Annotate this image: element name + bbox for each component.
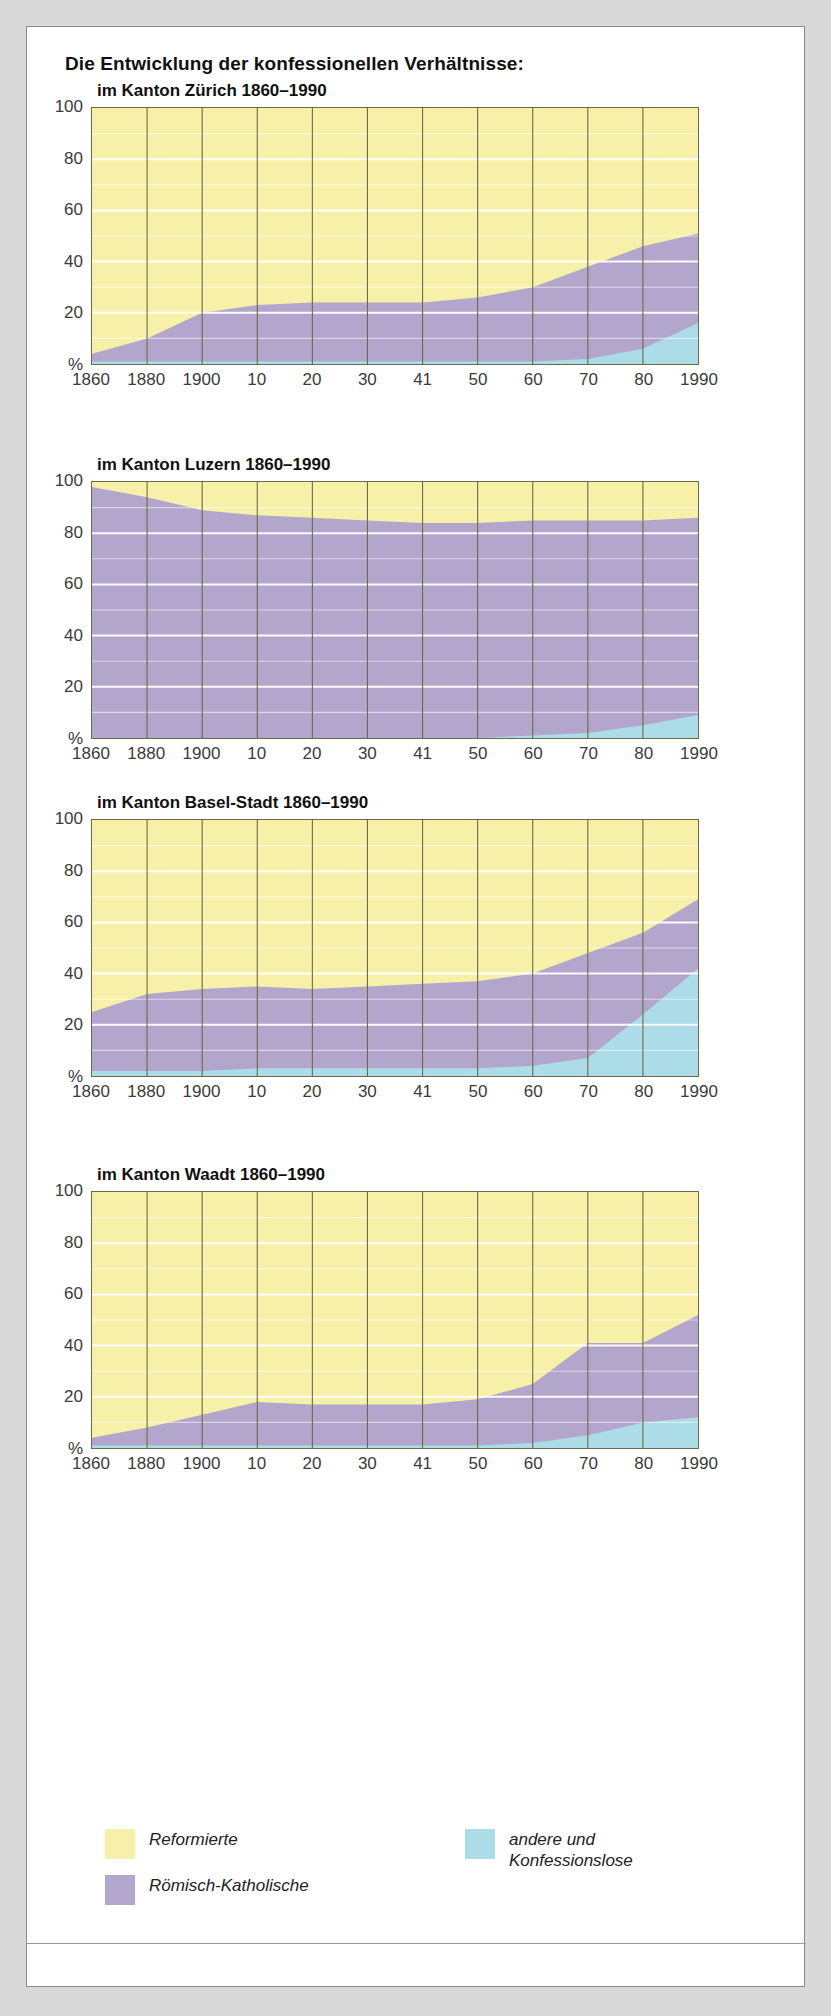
plot-area-luzern: 10080604020% xyxy=(27,481,806,739)
plot-area-waadt: 10080604020% xyxy=(27,1191,806,1449)
x-tick-label: 1860 xyxy=(72,744,110,764)
x-tick-label: 1900 xyxy=(183,370,221,390)
y-tick-label: 100 xyxy=(55,809,83,829)
chart-legend: ReformierteRömisch-Katholischeandere und… xyxy=(27,1829,806,1939)
plot-zuerich xyxy=(91,107,699,365)
x-tick-label: 41 xyxy=(413,370,432,390)
x-tick-label: 80 xyxy=(634,1082,653,1102)
plot-luzern xyxy=(91,481,699,739)
y-tick-label: 40 xyxy=(64,964,83,984)
y-tick-label: 20 xyxy=(64,1387,83,1407)
x-tick-label: 1860 xyxy=(72,1454,110,1474)
x-tick-label: 10 xyxy=(247,744,266,764)
x-tick-label: 1900 xyxy=(183,1082,221,1102)
x-tick-label: 41 xyxy=(413,1454,432,1474)
x-tick-label: 30 xyxy=(358,1082,377,1102)
plot-area-zuerich: 10080604020% xyxy=(27,107,806,365)
x-tick-label: 60 xyxy=(524,1082,543,1102)
legend-label: andere undKonfessionslose xyxy=(509,1829,633,1871)
y-tick-label: 100 xyxy=(55,97,83,117)
plot-basel-stadt xyxy=(91,819,699,1077)
legend-label-line1: andere und xyxy=(509,1829,633,1850)
chart-title-basel-stadt: im Kanton Basel-Stadt 1860–1990 xyxy=(97,793,368,813)
x-tick-label: 1990 xyxy=(680,744,718,764)
x-tick-label: 1880 xyxy=(127,1082,165,1102)
x-tick-label: 60 xyxy=(524,370,543,390)
plot-area-basel-stadt: 10080604020% xyxy=(27,819,806,1077)
x-tick-label: 30 xyxy=(358,744,377,764)
y-tick-label: 100 xyxy=(55,471,83,491)
x-tick-label: 1990 xyxy=(680,370,718,390)
x-tick-label: 60 xyxy=(524,1454,543,1474)
x-tick-label: 50 xyxy=(468,744,487,764)
y-tick-label: 20 xyxy=(64,677,83,697)
figure-page: Die Entwicklung der konfessionellen Verh… xyxy=(0,0,831,2016)
page-title: Die Entwicklung der konfessionellen Verh… xyxy=(65,53,524,75)
x-tick-label: 70 xyxy=(579,1082,598,1102)
x-tick-label: 1860 xyxy=(72,1082,110,1102)
legend-swatch-icon xyxy=(465,1829,495,1859)
y-axis-waadt: 10080604020% xyxy=(27,1191,89,1449)
x-axis-luzern: 18601880190010203041506070801990 xyxy=(91,742,699,768)
legend-katholische: Römisch-Katholische xyxy=(105,1875,309,1905)
legend-label: Römisch-Katholische xyxy=(149,1875,309,1896)
x-tick-label: 1990 xyxy=(680,1454,718,1474)
chart-title-waadt: im Kanton Waadt 1860–1990 xyxy=(97,1165,325,1185)
y-tick-label: 20 xyxy=(64,1015,83,1035)
y-tick-label: 20 xyxy=(64,303,83,323)
x-tick-label: 10 xyxy=(247,1082,266,1102)
x-tick-label: 30 xyxy=(358,1454,377,1474)
x-tick-label: 1990 xyxy=(680,1082,718,1102)
x-tick-label: 70 xyxy=(579,370,598,390)
x-tick-label: 80 xyxy=(634,1454,653,1474)
y-tick-label: 60 xyxy=(64,1284,83,1304)
y-tick-label: 80 xyxy=(64,523,83,543)
x-tick-label: 50 xyxy=(468,1454,487,1474)
x-tick-label: 60 xyxy=(524,744,543,764)
x-axis-basel-stadt: 18601880190010203041506070801990 xyxy=(91,1080,699,1106)
y-axis-zuerich: 10080604020% xyxy=(27,107,89,365)
y-tick-label: 40 xyxy=(64,252,83,272)
x-tick-label: 10 xyxy=(247,1454,266,1474)
y-tick-label: 80 xyxy=(64,861,83,881)
plot-waadt xyxy=(91,1191,699,1449)
y-tick-label: 40 xyxy=(64,626,83,646)
y-tick-label: 60 xyxy=(64,912,83,932)
x-tick-label: 1900 xyxy=(183,1454,221,1474)
x-tick-label: 20 xyxy=(303,1082,322,1102)
legend-label: Reformierte xyxy=(149,1829,238,1850)
x-tick-label: 70 xyxy=(579,744,598,764)
y-tick-label: 60 xyxy=(64,200,83,220)
x-axis-zuerich: 18601880190010203041506070801990 xyxy=(91,368,699,394)
legend-andere: andere undKonfessionslose xyxy=(465,1829,633,1871)
chart-title-luzern: im Kanton Luzern 1860–1990 xyxy=(97,455,330,475)
figure-card: Die Entwicklung der konfessionellen Verh… xyxy=(26,26,805,1987)
y-tick-label: 80 xyxy=(64,149,83,169)
x-tick-label: 50 xyxy=(468,370,487,390)
y-tick-label: 60 xyxy=(64,574,83,594)
x-tick-label: 30 xyxy=(358,370,377,390)
x-tick-label: 1880 xyxy=(127,1454,165,1474)
x-tick-label: 20 xyxy=(303,1454,322,1474)
y-axis-basel-stadt: 10080604020% xyxy=(27,819,89,1077)
chart-title-zuerich: im Kanton Zürich 1860–1990 xyxy=(97,81,327,101)
x-axis-waadt: 18601880190010203041506070801990 xyxy=(91,1452,699,1478)
x-tick-label: 50 xyxy=(468,1082,487,1102)
x-tick-label: 1860 xyxy=(72,370,110,390)
y-tick-label: 40 xyxy=(64,1336,83,1356)
x-tick-label: 20 xyxy=(303,370,322,390)
y-tick-label: 80 xyxy=(64,1233,83,1253)
x-tick-label: 1900 xyxy=(183,744,221,764)
legend-divider xyxy=(27,1943,806,1944)
y-tick-label: 100 xyxy=(55,1181,83,1201)
x-tick-label: 80 xyxy=(634,370,653,390)
legend-swatch-icon xyxy=(105,1829,135,1859)
x-tick-label: 70 xyxy=(579,1454,598,1474)
x-tick-label: 20 xyxy=(303,744,322,764)
legend-reformierte: Reformierte xyxy=(105,1829,238,1859)
legend-label-line2: Konfessionslose xyxy=(509,1850,633,1871)
x-tick-label: 10 xyxy=(247,370,266,390)
x-tick-label: 1880 xyxy=(127,744,165,764)
x-tick-label: 41 xyxy=(413,1082,432,1102)
x-tick-label: 41 xyxy=(413,744,432,764)
